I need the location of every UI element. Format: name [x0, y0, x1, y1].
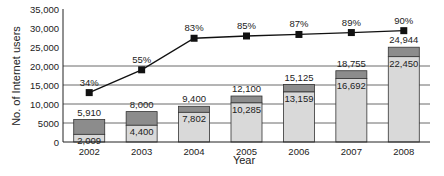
- y-tick-label: 20,000: [30, 61, 59, 72]
- bar-upper-segment: [336, 71, 367, 79]
- x-tick-label: 2003: [131, 146, 152, 157]
- bar-total-label: 9,400: [182, 93, 206, 104]
- percentage-label: 55%: [132, 54, 152, 65]
- y-tick-label: 10,000: [30, 99, 59, 110]
- y-axis-title: No. of Internet users: [10, 26, 22, 126]
- bar-total-label: 8,000: [130, 99, 154, 110]
- y-tick-label: 25,000: [30, 42, 59, 53]
- x-tick-label: 2004: [184, 146, 205, 157]
- bar-total-label: 5,910: [77, 107, 101, 118]
- percentage-label: 87%: [289, 18, 309, 29]
- chart: 5,9102,0098,0004,4009,4007,80212,10010,2…: [0, 0, 444, 176]
- bar-upper-segment: [126, 112, 157, 126]
- bar-total-label: 12,100: [232, 83, 261, 94]
- bars: 5,9102,0098,0004,4009,4007,80212,10010,2…: [74, 34, 420, 146]
- y-tick-label: 35,000: [30, 4, 59, 15]
- percentage-marker: [86, 89, 93, 96]
- bar-total-label: 15,125: [284, 72, 313, 83]
- percentage-marker: [191, 35, 198, 42]
- x-axis-title: Year: [233, 154, 256, 166]
- x-tick-label: 2008: [393, 146, 414, 157]
- y-tick-label: 15,000: [30, 80, 59, 91]
- bar-lower-label: 7,802: [182, 113, 206, 124]
- bar-upper-segment: [388, 47, 419, 56]
- x-tick-label: 2006: [288, 146, 309, 157]
- y-tick-label: 0: [54, 137, 59, 148]
- bar-lower-label: 13,159: [284, 93, 313, 104]
- bar-lower-label: 22,450: [389, 58, 418, 69]
- percentage-marker: [138, 66, 145, 73]
- percentage-label: 90%: [394, 15, 414, 26]
- bar-lower-label: 16,692: [337, 80, 366, 91]
- percentage-marker: [295, 31, 302, 38]
- bar-upper-segment: [231, 96, 262, 103]
- percentage-marker: [348, 29, 355, 36]
- bar-upper-segment: [179, 106, 210, 112]
- bar-lower-segment: [388, 57, 419, 142]
- percentage-marker: [400, 27, 407, 34]
- bar-lower-label: 4,400: [130, 126, 154, 137]
- bar-lower-label: 2,009: [77, 135, 101, 146]
- y-tick-label: 30,000: [30, 23, 59, 34]
- percentage-label: 85%: [237, 20, 257, 31]
- bar-upper-segment: [74, 120, 105, 135]
- y-tick-label: 5000: [38, 118, 59, 129]
- percentage-label: 34%: [80, 77, 100, 88]
- bar-total-label: 18,755: [337, 58, 366, 69]
- percentage-label: 89%: [342, 17, 362, 28]
- bar-lower-label: 10,285: [232, 104, 261, 115]
- percentage-label: 83%: [185, 22, 205, 33]
- percentage-marker: [243, 32, 250, 39]
- bar-total-label: 24,944: [389, 34, 418, 45]
- x-tick-label: 2002: [79, 146, 100, 157]
- bar-upper-segment: [283, 85, 314, 92]
- x-tick-label: 2007: [341, 146, 362, 157]
